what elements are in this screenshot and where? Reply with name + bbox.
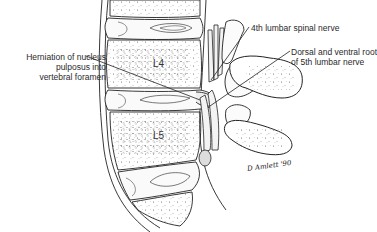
- disc-l3-l4: [105, 18, 203, 40]
- vertebra-label-l4: L4: [153, 58, 164, 69]
- label-herniation-line2: pulposus into: [2, 62, 106, 72]
- disc-l4-l5: [105, 90, 215, 111]
- signature-year: '90: [280, 159, 292, 168]
- vertebra-l3: [110, 0, 200, 18]
- label-4th-lumbar-spinal-nerve: 4th lumbar spinal nerve: [251, 23, 339, 33]
- label-dorsal-ventral-root: Dorsal and ventral root of 5th lumbar ne…: [291, 47, 377, 67]
- label-roots-line1: Dorsal and ventral root: [291, 47, 377, 57]
- vertebra-label-l5: L5: [153, 130, 164, 141]
- label-roots-line2: of 5th lumbar nerve: [291, 57, 377, 67]
- label-herniation: Herniation of nucleus pulposus into vert…: [2, 52, 106, 82]
- transverse-process-lower: [224, 120, 292, 154]
- label-herniation-line3: vertebral foramen: [2, 72, 106, 82]
- vertebra-l5: [110, 112, 201, 170]
- label-herniation-line1: Herniation of nucleus: [2, 52, 106, 62]
